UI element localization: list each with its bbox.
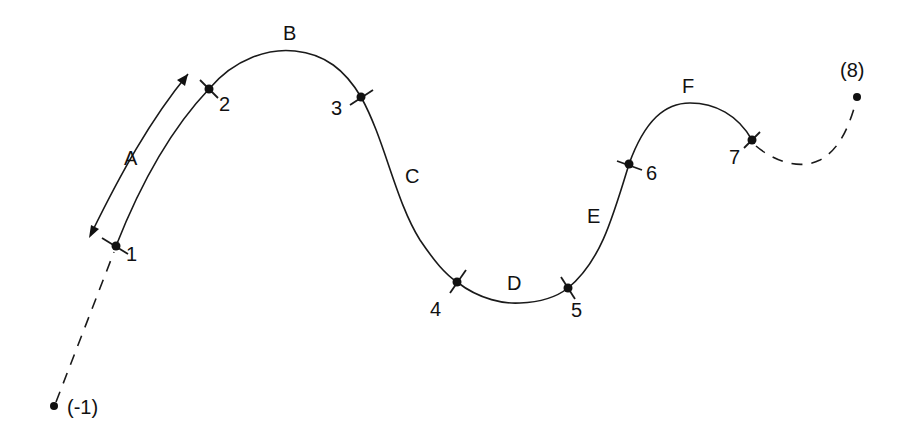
extrapolation-start [56,252,114,402]
segment-a-extent-arrow [89,74,188,238]
knot-7 [744,132,760,148]
label-segment-b: B [283,22,296,44]
extrapolation-end [756,102,856,164]
phantom-point-minus-1 [50,402,58,410]
label-segment-c: C [405,165,419,187]
knot-1 [102,238,128,254]
label-point-4: 4 [430,298,441,320]
label-segment-d: D [507,272,521,294]
label-segment-a: A [124,147,138,169]
label-point-1: 1 [126,243,137,265]
label-point-8: (8) [840,59,864,81]
segment-b [209,50,361,97]
label-segment-f: F [682,75,694,97]
label-point-6: 6 [646,162,657,184]
label-point-5: 5 [571,299,582,321]
label-point-2: 2 [219,93,230,115]
label-point-minus-1: (-1) [67,396,98,418]
knot-4 [450,270,466,293]
spline-diagram: (-1) 1 2 3 4 5 6 7 (8) A B C D E F [0,0,915,434]
label-point-3: 3 [331,97,342,119]
label-point-7: 7 [729,146,740,168]
knot-6 [617,160,642,171]
phantom-point-8 [853,93,861,101]
segment-c [361,97,457,282]
knot-3 [350,90,373,105]
knot-5 [561,277,575,299]
label-segment-e: E [587,205,600,227]
